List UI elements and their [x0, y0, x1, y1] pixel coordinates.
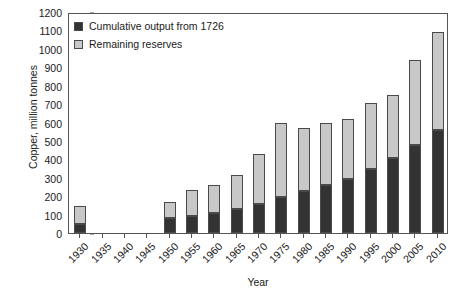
x-tick-label: 1945 — [133, 240, 158, 265]
x-tick-mark — [414, 234, 415, 238]
legend-label: Remaining reserves — [89, 38, 182, 50]
x-tick-mark — [303, 234, 304, 238]
x-tick-mark — [79, 234, 80, 238]
x-tick-label: 2010 — [423, 240, 448, 265]
copper-reserves-chart: Copper, million tonnes 01002003004005006… — [0, 0, 458, 294]
legend-item: Cumulative output from 1726 — [74, 19, 224, 33]
x-tick-label: 1930 — [66, 240, 91, 265]
x-tick-mark — [370, 234, 371, 238]
x-tick-label: 1975 — [267, 240, 292, 265]
x-tick-mark — [258, 234, 259, 238]
chart-legend: Cumulative output from 1726Remaining res… — [74, 19, 224, 51]
x-tick-mark — [191, 234, 192, 238]
x-tick-label: 1995 — [356, 240, 381, 265]
x-tick-mark — [169, 234, 170, 238]
x-tick-label: 1965 — [222, 240, 247, 265]
x-tick-mark — [392, 234, 393, 238]
x-tick-mark — [325, 234, 326, 238]
x-tick-label: 1940 — [110, 240, 135, 265]
x-axis-ticks: 1930193519401945195019551960196519701975… — [0, 0, 458, 294]
x-tick-label: 1980 — [289, 240, 314, 265]
x-tick-label: 1985 — [312, 240, 337, 265]
x-tick-mark — [146, 234, 147, 238]
legend-item: Remaining reserves — [74, 37, 224, 51]
x-tick-mark — [236, 234, 237, 238]
x-axis-title: Year — [68, 276, 448, 288]
x-tick-label: 1990 — [334, 240, 359, 265]
x-tick-mark — [280, 234, 281, 238]
x-tick-label: 1935 — [88, 240, 113, 265]
x-tick-mark — [213, 234, 214, 238]
x-tick-label: 1955 — [177, 240, 202, 265]
x-tick-mark — [347, 234, 348, 238]
x-tick-label: 1970 — [244, 240, 269, 265]
legend-swatch-icon — [74, 40, 83, 49]
x-tick-label: 1950 — [155, 240, 180, 265]
x-tick-mark — [124, 234, 125, 238]
x-tick-label: 2000 — [379, 240, 404, 265]
x-tick-mark — [102, 234, 103, 238]
x-tick-label: 2005 — [401, 240, 426, 265]
x-tick-mark — [437, 234, 438, 238]
legend-label: Cumulative output from 1726 — [89, 20, 224, 32]
legend-swatch-icon — [74, 22, 83, 31]
x-tick-label: 1960 — [200, 240, 225, 265]
